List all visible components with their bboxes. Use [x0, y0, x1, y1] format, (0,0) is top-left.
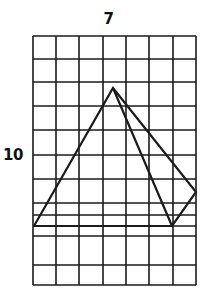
shape-outer-polygon [34, 88, 196, 226]
shape-paths [34, 88, 196, 226]
grid-figure-canvas [0, 0, 217, 296]
top-dimension-label: 7 [0, 12, 217, 27]
left-dimension-label: 10 [3, 148, 23, 163]
shape-inner-chord [113, 88, 172, 226]
figure-root: 7 10 [0, 0, 217, 296]
